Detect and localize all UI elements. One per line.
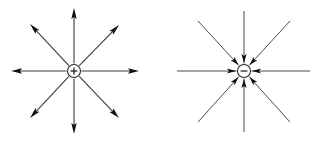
figure-canvas — [0, 0, 316, 141]
field-line-upper-right — [79, 29, 115, 65]
field-line-lower-left — [198, 77, 239, 122]
field-line-upper-right — [249, 21, 290, 65]
positive-charge-symbol — [68, 65, 81, 78]
field-line-upper-left — [34, 28, 69, 65]
electric-field-figure — [0, 0, 316, 141]
negative-charge-diagram — [177, 11, 310, 132]
field-line-lower-right — [79, 76, 115, 113]
negative-charge-symbol — [238, 65, 251, 78]
field-line-lower-right — [249, 77, 290, 122]
field-line-lower-left — [34, 76, 69, 113]
field-line-upper-left — [198, 21, 239, 65]
positive-charge-diagram — [11, 8, 139, 134]
